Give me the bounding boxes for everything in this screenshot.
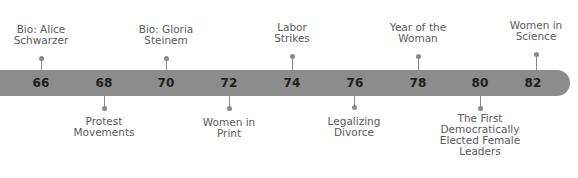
pin-line — [536, 55, 537, 70]
pin-line — [418, 57, 419, 70]
event-label: Protest Movements — [49, 116, 159, 138]
event-label: Bio: Gloria Steinem — [111, 24, 221, 46]
event-label: Women in Science — [481, 20, 578, 42]
pin-dot-icon — [478, 106, 483, 111]
pin-line — [292, 57, 293, 70]
event-label: Year of the Woman — [363, 22, 473, 44]
pin-dot-icon — [102, 106, 107, 111]
year-78: 78 — [403, 70, 433, 96]
event-label: The First Democratically Elected Female … — [425, 113, 535, 157]
event-label: Bio: Alice Schwarzer — [0, 24, 96, 46]
event-label: Labor Strikes — [237, 22, 347, 44]
year-72: 72 — [214, 70, 244, 96]
pin-dot-icon — [352, 105, 357, 110]
year-74: 74 — [277, 70, 307, 96]
year-82: 82 — [518, 70, 548, 96]
year-70: 70 — [151, 70, 181, 96]
year-66: 66 — [26, 70, 56, 96]
event-label: Women in Print — [174, 117, 284, 139]
pin-dot-icon — [227, 106, 232, 111]
pin-line — [166, 59, 167, 70]
year-68: 68 — [89, 70, 119, 96]
year-80: 80 — [465, 70, 495, 96]
pin-line — [41, 59, 42, 70]
event-label: Legalizing Divorce — [299, 116, 409, 138]
year-76: 76 — [340, 70, 370, 96]
